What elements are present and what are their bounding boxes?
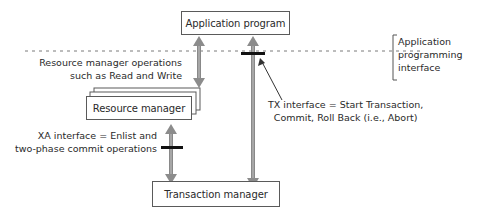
api-bracket (393, 35, 397, 80)
tx-pointer-line (262, 62, 282, 100)
tx-interface-label: TX interface = Start Transaction, Commit… (268, 98, 423, 124)
transaction-manager-label: Transaction manager (164, 189, 267, 200)
rm-operations-label: Resource manager operations such as Read… (39, 56, 182, 82)
transaction-manager-node: Transaction manager (152, 181, 280, 207)
tx-interface-marker (241, 52, 265, 55)
xa-arrow (165, 124, 177, 184)
resource-manager-label: Resource manager (93, 103, 185, 114)
rm-operations-arrow (193, 36, 205, 88)
tx-arrow (247, 36, 259, 188)
application-program-node: Application program (181, 11, 290, 35)
application-program-label: Application program (186, 18, 286, 29)
xa-interface-label: XA interface = Enlist and two-phase comm… (15, 129, 157, 155)
resource-manager-node: Resource manager (86, 96, 192, 120)
xa-interface-marker (161, 146, 183, 149)
api-label: Application programming interface (398, 35, 463, 74)
